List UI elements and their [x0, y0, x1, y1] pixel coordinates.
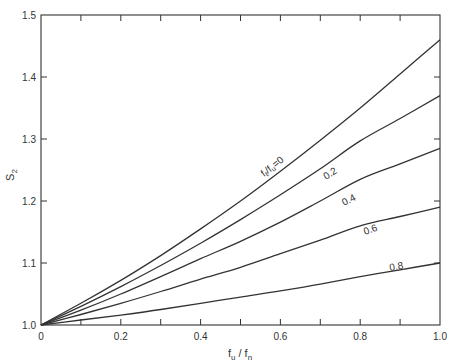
x-tick-labels: 00.20.40.60.81.0: [38, 331, 447, 342]
curve-ffu0: [41, 40, 440, 325]
y-axis-label: S2: [4, 169, 19, 181]
plot-frame: [41, 15, 440, 325]
curve-label-0: fℓ/fu=0: [258, 154, 286, 180]
curve-0.6: [41, 207, 440, 325]
curve-label-0.8: 0.8: [388, 260, 404, 273]
x-axis-label: fu / fn: [228, 347, 252, 362]
y-tick-label: 1.1: [22, 258, 36, 269]
x-tick-label: 0.4: [194, 331, 208, 342]
y-tick-label: 1.2: [22, 196, 36, 207]
y-tick-label: 1.5: [22, 10, 36, 21]
curve-0.8: [41, 263, 440, 325]
y-tick-label: 1.0: [22, 320, 36, 331]
x-tick-label: 0: [38, 331, 44, 342]
curve-0.2: [41, 96, 440, 325]
curve-label-0.2: 0.2: [321, 165, 339, 182]
y-tick-label: 1.3: [22, 134, 36, 145]
chart: 00.20.40.60.81.0 1.01.11.21.31.41.5 S2 f…: [0, 0, 456, 364]
curve-label-0.4: 0.4: [340, 191, 358, 207]
x-tick-label: 0.6: [273, 331, 287, 342]
y-tick-labels: 1.01.11.21.31.41.5: [22, 10, 36, 331]
curve-label-0.6: 0.6: [362, 222, 379, 237]
x-tick-label: 1.0: [433, 331, 447, 342]
x-tick-label: 0.8: [353, 331, 367, 342]
curves: [41, 40, 440, 325]
x-tick-label: 0.2: [114, 331, 128, 342]
y-tick-label: 1.4: [22, 72, 36, 83]
axis-ticks: [41, 15, 440, 325]
plot-border: [41, 15, 440, 325]
curve-0.4: [41, 148, 440, 325]
